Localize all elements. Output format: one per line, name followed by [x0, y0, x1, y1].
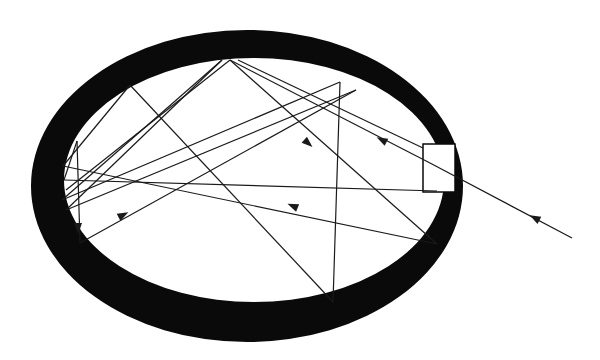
ray-segment: [80, 90, 356, 243]
ray-segment: [66, 90, 356, 210]
light-rays: [62, 60, 572, 302]
arrow-icon: [286, 200, 299, 212]
ray-segment: [130, 85, 333, 302]
ray-segment: [64, 180, 437, 191]
ray-segment: [230, 60, 430, 163]
ray-direction-arrows: [74, 134, 541, 234]
arrow-icon: [302, 137, 316, 150]
diagram-canvas: [0, 0, 600, 360]
cavity-diagram: [0, 0, 600, 360]
arrow-icon: [528, 212, 541, 224]
ray-segment: [63, 166, 437, 244]
